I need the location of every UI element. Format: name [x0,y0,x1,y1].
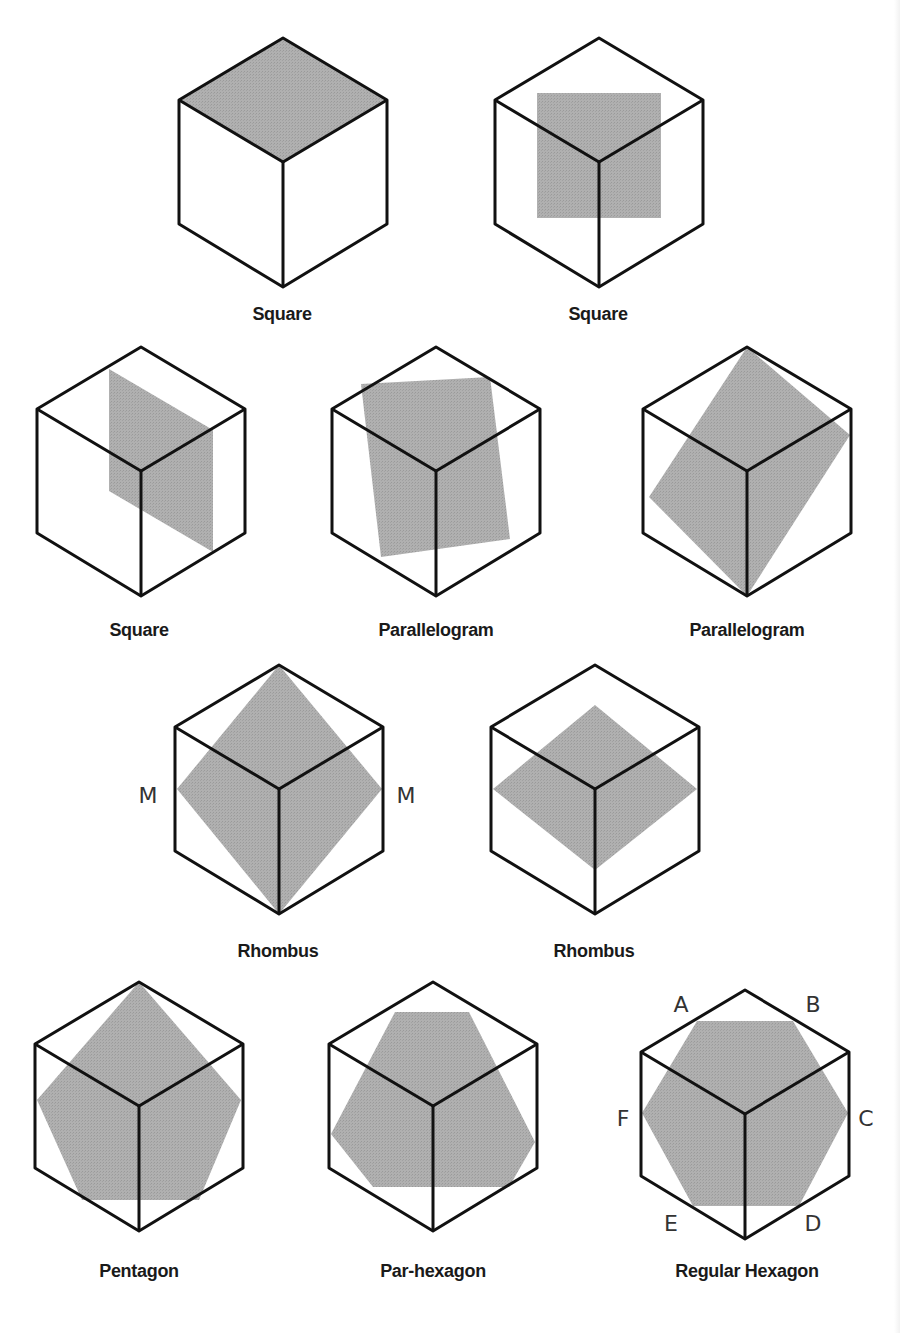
shape-caption: Parallelogram [378,620,493,641]
cube-diagram [179,38,387,287]
vertex-label: A [673,992,688,1017]
shape-caption: Par-hexagon [380,1261,486,1282]
cube-diagram [35,982,243,1231]
shape-caption: Parallelogram [689,620,804,641]
shape-caption: Square [568,304,627,325]
vertex-label: M [397,783,416,808]
page-edge-shadow [894,0,900,1333]
cross-section-shape [179,38,387,162]
vertex-label: D [805,1211,822,1236]
vertex-label: B [805,992,820,1017]
vertex-label: C [858,1106,873,1131]
cross-section-shape [649,347,850,596]
cube-diagram [329,982,537,1231]
cube-diagram [175,665,383,914]
shape-caption: Square [252,304,311,325]
cube-cross-sections-figure: SquareSquareSquareParallelogramParallelo… [0,0,900,1333]
figure-canvas [0,0,900,1333]
shape-caption: Rhombus [554,941,635,962]
cube-diagram [495,38,703,287]
shape-caption: Square [109,620,168,641]
cube-diagram [332,347,540,596]
shape-caption: Rhombus [238,941,319,962]
cube-diagram [643,347,851,596]
shape-caption: Pentagon [99,1261,179,1282]
vertex-label: M [139,783,158,808]
cube-diagram [641,990,849,1239]
cube-diagram [37,347,245,596]
cube-diagram [491,665,699,914]
vertex-label: F [617,1106,630,1131]
shape-caption: Regular Hexagon [675,1261,819,1282]
vertex-label: E [664,1211,678,1236]
